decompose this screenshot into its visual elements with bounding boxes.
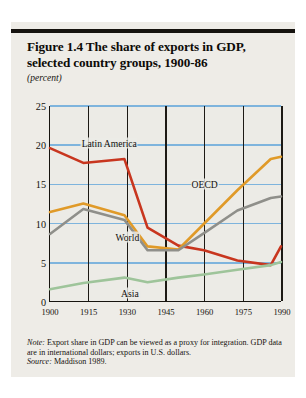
x-tick-label: 1990 bbox=[273, 307, 290, 317]
x-tick-label: 1945 bbox=[157, 307, 174, 317]
y-tick-label: 25 bbox=[36, 101, 46, 112]
note-label: Note: bbox=[27, 338, 45, 347]
source-line: Source: Maddison 1989. bbox=[27, 357, 283, 367]
y-tick-label: 20 bbox=[36, 140, 46, 151]
figure-title: Figure 1.4 The share of exports in GDP, … bbox=[27, 39, 279, 70]
y-tick-label: 5 bbox=[41, 257, 46, 268]
source-label: Source: bbox=[27, 357, 52, 366]
x-tick-label: 1900 bbox=[41, 307, 58, 317]
gridline-vertical bbox=[281, 106, 283, 301]
title-rule bbox=[11, 29, 295, 33]
series-label-asia: Asia bbox=[120, 287, 140, 298]
chart-plot-area: 0510152025 1900191519301945196019751990 … bbox=[49, 106, 281, 302]
note-line: Note: Export share in GDP can be viewed … bbox=[27, 338, 283, 357]
x-tick-label: 1960 bbox=[196, 307, 213, 317]
y-tick-label: 10 bbox=[36, 218, 46, 229]
series-label-world: World bbox=[114, 231, 140, 242]
note-text: Export share in GDP can be viewed as a p… bbox=[27, 338, 282, 357]
series-line-oecd bbox=[50, 157, 281, 250]
series-label-oecd: OECD bbox=[191, 178, 219, 189]
figure-page: Figure 1.4 The share of exports in GDP, … bbox=[0, 0, 306, 398]
x-tick-label: 1915 bbox=[80, 307, 97, 317]
chart-plot-wrapper: 0510152025 1900191519301945196019751990 … bbox=[27, 88, 281, 314]
series-line-asia bbox=[50, 262, 281, 289]
y-tick-label: 15 bbox=[36, 179, 46, 190]
series-lines bbox=[50, 106, 281, 301]
y-tick-label: 0 bbox=[41, 297, 46, 308]
x-tick-label: 1975 bbox=[235, 307, 252, 317]
series-label-latin-america: Latin America bbox=[81, 137, 138, 148]
source-text: Maddison 1989. bbox=[52, 357, 107, 366]
figure-notes: Note: Export share in GDP can be viewed … bbox=[27, 338, 283, 367]
x-tick-label: 1930 bbox=[119, 307, 136, 317]
figure-subtitle: (percent) bbox=[27, 72, 62, 83]
